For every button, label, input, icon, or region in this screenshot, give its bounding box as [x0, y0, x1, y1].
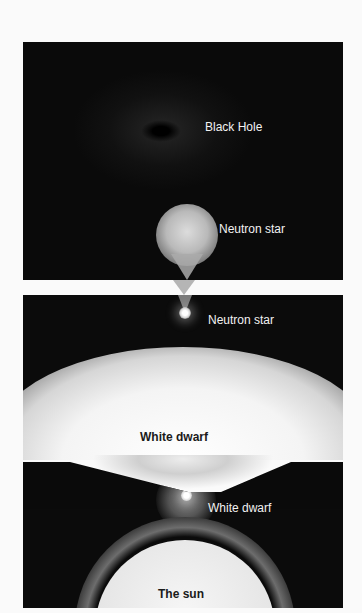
panel-black-hole: Black Hole Neutron star	[23, 42, 343, 280]
panel-neutron-star: Neutron star White dwarf	[23, 295, 343, 460]
collapse-cone-top	[171, 254, 203, 280]
label-white-dwarf-mid: White dwarf	[140, 430, 208, 444]
black-hole-shape	[141, 120, 181, 142]
label-sun: The sun	[158, 587, 204, 601]
label-neutron-star-mid: Neutron star	[208, 313, 274, 327]
neutron-star-dot	[179, 307, 191, 319]
collapse-cone-gap	[173, 280, 195, 295]
label-neutron-star-top: Neutron star	[219, 222, 285, 236]
label-white-dwarf-bottom: White dwarf	[208, 501, 271, 515]
label-black-hole: Black Hole	[205, 120, 262, 134]
